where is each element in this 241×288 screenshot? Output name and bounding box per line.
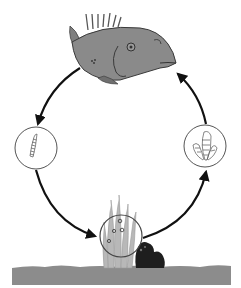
cycle-arrows <box>36 68 206 238</box>
arrow-eggs-to-juvenile <box>143 172 206 238</box>
arrow-adult-to-larva <box>38 68 80 124</box>
larva-stage <box>15 127 57 169</box>
arrow-larva-to-eggs <box>36 170 95 236</box>
juvenile-stage <box>184 125 226 167</box>
adult-fish-icon <box>70 13 176 84</box>
arrow-juvenile-to-adult <box>178 74 206 124</box>
life-cycle-diagram <box>0 0 241 288</box>
